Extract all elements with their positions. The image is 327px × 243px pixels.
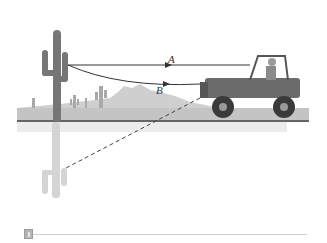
figure-badge-icon — [24, 229, 33, 239]
arrow-b — [163, 81, 170, 87]
footer-divider — [33, 234, 307, 235]
label-rope-a: A — [168, 53, 175, 65]
figure-scene: A B — [0, 0, 327, 243]
physics-diagram — [0, 0, 327, 243]
cactus-reflection — [42, 122, 67, 198]
label-rope-b: B — [156, 84, 163, 96]
rope-b — [68, 65, 200, 85]
